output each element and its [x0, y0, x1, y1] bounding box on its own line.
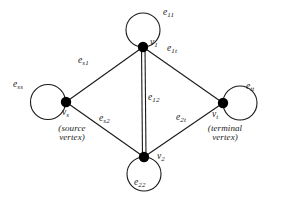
vertex-dot-v2: [139, 152, 149, 162]
vertex-label-v2: v2: [157, 152, 165, 162]
edge-label-e12: e12: [148, 93, 160, 103]
vertex-dot-vt: [218, 98, 228, 108]
graph-diagram: e11 v1 e1t ess es1 vs (source vertex) es…: [0, 0, 281, 199]
vertex-label-vs: vs: [62, 108, 69, 118]
vertex-dot-vs: [61, 97, 71, 107]
edge-e12-line-right: [145, 47, 146, 157]
edge-label-es2: es2: [99, 114, 110, 124]
loop-label-ett: ett: [246, 82, 254, 92]
edge-label-e1t: e1t: [167, 44, 177, 54]
graph-canvas: [0, 0, 281, 199]
vertex-dot-v1: [138, 42, 148, 52]
vertex-label-vt: vt: [212, 110, 218, 120]
vertex-label-v1: v1: [150, 38, 158, 48]
edge-e12-double-line: [142, 47, 147, 157]
loop-label-e11: e11: [163, 8, 174, 18]
source-vertex-caption: (source vertex): [42, 124, 102, 142]
loop-label-ess: ess: [13, 80, 23, 90]
edge-label-es1: es1: [78, 56, 89, 66]
source-caption-line2: vertex): [42, 133, 102, 142]
terminal-vertex-caption: (terminal vertex): [191, 124, 259, 142]
terminal-caption-line2: vertex): [191, 133, 259, 142]
loop-label-e22: e22: [134, 178, 146, 188]
edge-e12-line-left: [142, 47, 143, 157]
edge-label-e2t: e2t: [176, 113, 186, 123]
loop-ess-circle: [31, 85, 66, 120]
